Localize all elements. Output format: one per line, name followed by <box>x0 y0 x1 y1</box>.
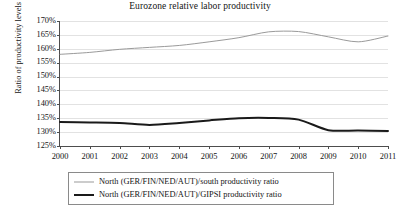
legend-label-gipsi: North (GER/FIN/NED/AUT)/GIPSI productivi… <box>99 190 282 200</box>
legend-line-icon-gipsi <box>73 190 95 200</box>
legend-label-south: North (GER/FIN/NED/AUT)/south productivi… <box>99 177 279 187</box>
legend-line-icon-south <box>73 177 95 187</box>
legend-item-gipsi[interactable]: North (GER/FIN/NED/AUT)/GIPSI productivi… <box>73 188 329 201</box>
chart-legend: North (GER/FIN/NED/AUT)/south productivi… <box>68 172 334 205</box>
legend-item-south[interactable]: North (GER/FIN/NED/AUT)/south productivi… <box>73 175 329 188</box>
chart-figure: Eurozone relative labor productivity Rat… <box>0 0 400 216</box>
x-axis-tick-label: 2011 <box>368 153 400 161</box>
